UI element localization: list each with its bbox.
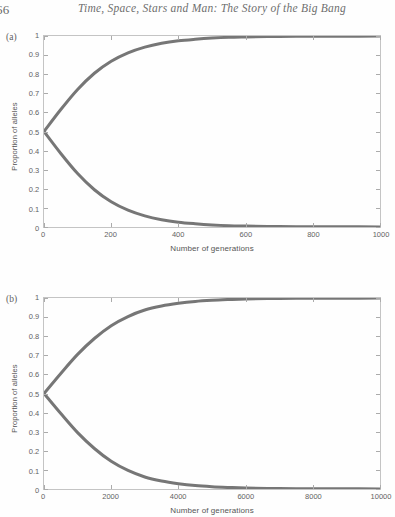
y-tick-mark <box>44 151 48 152</box>
y-tick-mark <box>376 227 380 228</box>
y-tick-mark <box>44 413 48 414</box>
y-tick-mark <box>44 227 48 228</box>
x-tick-label: 1000 <box>373 230 390 239</box>
y-tick-mark <box>376 170 380 171</box>
x-tick-mark <box>313 298 314 302</box>
y-tick-mark <box>376 470 380 471</box>
x-tick-mark <box>380 298 381 302</box>
x-tick-label: 8000 <box>305 492 322 501</box>
y-tick-mark <box>376 394 380 395</box>
y-tick-label: 0.7 <box>29 350 39 359</box>
y-tick-label: 0.1 <box>29 204 39 213</box>
y-tick-mark <box>376 151 380 152</box>
x-tick-mark <box>313 36 314 40</box>
x-tick-mark <box>111 485 112 489</box>
y-tick-label: 1 <box>35 293 39 302</box>
figure-panel-a: (a) 00.10.20.30.40.50.60.70.80.91 020040… <box>0 28 395 268</box>
series-line <box>44 36 380 132</box>
x-tick-mark <box>380 223 381 227</box>
series-line <box>44 394 380 490</box>
x-tick-label: 400 <box>172 230 185 239</box>
y-tick-label: 0.8 <box>29 69 39 78</box>
x-tick-label: 2000 <box>102 492 119 501</box>
y-tick-mark <box>376 132 380 133</box>
y-tick-mark <box>44 189 48 190</box>
y-tick-label: 0.6 <box>29 108 39 117</box>
y-tick-mark <box>44 74 48 75</box>
y-tick-mark <box>376 413 380 414</box>
x-tick-mark <box>44 485 45 489</box>
y-tick-label: 0 <box>35 224 39 233</box>
y-tick-mark <box>44 432 48 433</box>
y-tick-mark <box>44 170 48 171</box>
series-line <box>44 132 380 228</box>
y-tick-mark <box>44 132 48 133</box>
x-tick-label: 600 <box>240 230 253 239</box>
x-tick-mark <box>313 485 314 489</box>
y-tick-mark <box>376 489 380 490</box>
x-axis-title-a: Number of generations <box>43 244 381 253</box>
y-tick-mark <box>44 55 48 56</box>
y-tick-mark <box>44 489 48 490</box>
page-number: 66 <box>0 2 9 18</box>
y-tick-mark <box>376 112 380 113</box>
y-tick-mark <box>376 451 380 452</box>
x-tick-label: 800 <box>307 230 320 239</box>
y-tick-mark <box>44 93 48 94</box>
y-tick-mark <box>376 55 380 56</box>
x-tick-mark <box>313 223 314 227</box>
y-tick-mark <box>376 93 380 94</box>
y-tick-label: 0.5 <box>29 389 39 398</box>
figure-panel-b: (b) 00.10.20.30.40.50.60.70.80.91 020004… <box>0 290 395 517</box>
plot-area-b <box>43 297 381 490</box>
y-tick-label: 0.5 <box>29 127 39 136</box>
x-tick-mark <box>246 298 247 302</box>
x-tick-mark <box>178 485 179 489</box>
y-tick-label: 1 <box>35 31 39 40</box>
y-tick-mark <box>44 208 48 209</box>
x-tick-label: 6000 <box>237 492 254 501</box>
y-tick-mark <box>44 112 48 113</box>
y-tick-label: 0.1 <box>29 466 39 475</box>
plot-area-a <box>43 35 381 228</box>
y-tick-mark <box>376 74 380 75</box>
x-tick-mark <box>111 36 112 40</box>
x-tick-mark <box>111 223 112 227</box>
y-tick-label: 0 <box>35 486 39 495</box>
y-tick-label: 0.2 <box>29 185 39 194</box>
x-tick-label: 0 <box>41 230 45 239</box>
y-tick-mark <box>44 317 48 318</box>
y-tick-label: 0.9 <box>29 312 39 321</box>
plot-curves-b <box>44 298 380 489</box>
x-tick-mark <box>111 298 112 302</box>
y-tick-mark <box>376 189 380 190</box>
y-tick-mark <box>44 451 48 452</box>
x-tick-mark <box>44 36 45 40</box>
y-tick-label: 0.7 <box>29 88 39 97</box>
x-tick-mark <box>178 36 179 40</box>
y-tick-label: 0.3 <box>29 166 39 175</box>
series-line <box>44 298 380 394</box>
y-tick-mark <box>376 317 380 318</box>
page-header: 66 Time, Space, Stars and Man: The Story… <box>0 0 395 24</box>
y-tick-mark <box>44 336 48 337</box>
x-axis-title-b: Number of generations <box>43 506 381 515</box>
y-tick-mark <box>376 432 380 433</box>
y-tick-label: 0.2 <box>29 447 39 456</box>
x-tick-mark <box>246 36 247 40</box>
x-tick-mark <box>44 223 45 227</box>
y-tick-mark <box>376 208 380 209</box>
y-tick-mark <box>44 470 48 471</box>
x-tick-labels-b: 0200040006000800010000 <box>43 492 381 506</box>
y-tick-label: 0.4 <box>29 146 39 155</box>
x-tick-label: 10000 <box>371 492 392 501</box>
y-tick-mark <box>376 336 380 337</box>
running-title: Time, Space, Stars and Man: The Story of… <box>62 2 362 14</box>
x-tick-mark <box>178 298 179 302</box>
x-tick-label: 0 <box>41 492 45 501</box>
x-tick-label: 4000 <box>170 492 187 501</box>
y-tick-mark <box>376 355 380 356</box>
y-tick-label: 0.4 <box>29 408 39 417</box>
y-axis-title-a: Proportion of alleles <box>10 67 19 207</box>
x-tick-mark <box>178 223 179 227</box>
